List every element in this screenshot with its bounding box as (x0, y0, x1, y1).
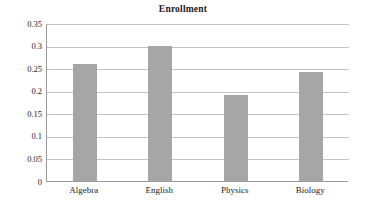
gridline (47, 24, 349, 25)
bar-english (148, 46, 172, 181)
x-axis-tick-label: Biology (270, 185, 350, 195)
bar-biology (299, 72, 323, 181)
y-axis-tick-label: 0.05 (2, 155, 42, 164)
y-axis-tick-label: 0.1 (2, 132, 42, 141)
plot-area (46, 24, 348, 182)
bar-chart: Enrollment 00.050.10.150.20.250.30.35 Al… (0, 0, 366, 209)
y-axis-tick-label: 0.25 (2, 65, 42, 74)
bar-algebra (73, 64, 97, 181)
y-axis-tick-label: 0 (2, 178, 42, 187)
y-axis-tick-label: 0.35 (2, 20, 42, 29)
gridline (47, 47, 349, 48)
y-axis-tick-label: 0.2 (2, 87, 42, 96)
x-axis-tick-label: English (119, 185, 199, 195)
y-axis-tick-label: 0.3 (2, 42, 42, 51)
x-axis-tick-label: Physics (195, 185, 275, 195)
y-axis-tick-label: 0.15 (2, 110, 42, 119)
chart-title: Enrollment (0, 4, 366, 14)
bar-physics (224, 95, 248, 181)
x-axis-tick-label: Algebra (44, 185, 124, 195)
y-axis-tick-labels: 00.050.10.150.20.250.30.35 (0, 24, 42, 182)
